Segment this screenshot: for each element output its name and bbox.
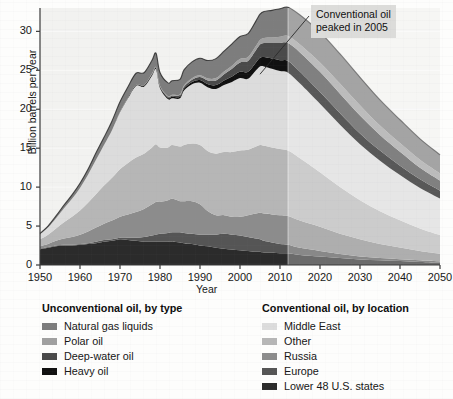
y-tick-label: 15 xyxy=(6,141,32,153)
legend-item-label: Other xyxy=(284,335,311,347)
y-tick-label: 10 xyxy=(6,180,32,192)
legend-swatch-icon xyxy=(42,323,57,330)
y-tick-label: 20 xyxy=(6,102,32,114)
legend-item-label: Lower 48 U.S. states xyxy=(284,380,384,392)
x-axis-title: Year xyxy=(196,283,217,295)
x-tick-label: 2040 xyxy=(380,271,420,283)
legend-title-unconventional: Unconventional oil, by type xyxy=(42,302,182,314)
legend-item: Deep-water oil xyxy=(42,349,182,363)
legend-item-label: Europe xyxy=(284,365,319,377)
y-tick-label: 25 xyxy=(6,63,32,75)
annotation-callout: Conventional oil peaked in 2005 xyxy=(311,5,396,38)
legend-swatch-icon xyxy=(262,353,277,360)
x-tick-label: 2010 xyxy=(260,271,300,283)
x-tick-label: 2000 xyxy=(220,271,260,283)
legend-swatch-icon xyxy=(262,323,277,330)
legend-item: Russia xyxy=(262,349,409,363)
legend-item-label: Natural gas liquids xyxy=(64,320,153,332)
legend-item-label: Polar oil xyxy=(64,335,103,347)
legend-item-label: Heavy oil xyxy=(64,365,108,377)
chart-legend: Unconventional oil, by type Natural gas … xyxy=(0,300,453,399)
legend-item: Europe xyxy=(262,364,409,378)
legend-item-label: Middle East xyxy=(284,320,340,332)
legend-swatch-icon xyxy=(262,368,277,375)
x-tick-label: 1980 xyxy=(140,271,180,283)
x-tick-label: 1960 xyxy=(60,271,100,283)
legend-group-unconventional: Unconventional oil, by type Natural gas … xyxy=(42,300,182,379)
x-tick-label: 2020 xyxy=(300,271,340,283)
legend-item: Heavy oil xyxy=(42,364,182,378)
annotation-line-2: peaked in 2005 xyxy=(316,21,391,34)
legend-swatch-icon xyxy=(42,338,57,345)
x-tick-label: 2050 xyxy=(420,271,453,283)
chart-plot-area xyxy=(0,0,453,300)
legend-item: Middle East xyxy=(262,319,409,333)
x-tick-label: 2030 xyxy=(340,271,380,283)
legend-item: Polar oil xyxy=(42,334,182,348)
x-tick-label: 1990 xyxy=(180,271,220,283)
legend-swatch-icon xyxy=(42,353,57,360)
legend-swatch-icon xyxy=(42,368,57,375)
legend-item: Lower 48 U.S. states xyxy=(262,379,409,393)
annotation-line-1: Conventional oil xyxy=(316,8,391,21)
forecast-overlay xyxy=(288,8,440,265)
x-tick-label: 1970 xyxy=(100,271,140,283)
stacked-area-chart: Billion barrels per year Year Convention… xyxy=(0,0,453,300)
legend-swatch-icon xyxy=(262,383,277,390)
legend-item: Other xyxy=(262,334,409,348)
legend-title-conventional: Conventional oil, by location xyxy=(262,302,409,314)
x-tick-label: 1950 xyxy=(20,271,60,283)
legend-item: Natural gas liquids xyxy=(42,319,182,333)
y-tick-label: 30 xyxy=(6,24,32,36)
legend-item-label: Russia xyxy=(284,350,317,362)
y-tick-label: 5 xyxy=(6,219,32,231)
legend-group-conventional: Conventional oil, by location Middle Eas… xyxy=(262,300,409,394)
y-tick-label: 0 xyxy=(6,258,32,270)
legend-swatch-icon xyxy=(262,338,277,345)
legend-item-label: Deep-water oil xyxy=(64,350,134,362)
